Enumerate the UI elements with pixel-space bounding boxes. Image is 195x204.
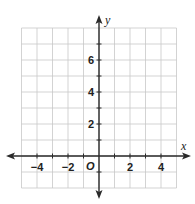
y-tick-label: 4 bbox=[88, 86, 95, 98]
x-tick-label: 4 bbox=[158, 161, 165, 173]
tick-labels: −4−224246 bbox=[31, 54, 165, 173]
x-axis-label: x bbox=[180, 139, 187, 153]
x-tick-label: 2 bbox=[127, 161, 133, 173]
y-tick-label: 6 bbox=[88, 54, 94, 66]
y-tick-label: 2 bbox=[88, 118, 94, 130]
y-axis-label: y bbox=[104, 13, 111, 27]
coordinate-plane: −4−224246 x y O bbox=[0, 0, 195, 204]
origin-label: O bbox=[86, 160, 95, 172]
x-tick-label: −2 bbox=[62, 161, 75, 173]
x-tick-label: −4 bbox=[31, 161, 44, 173]
